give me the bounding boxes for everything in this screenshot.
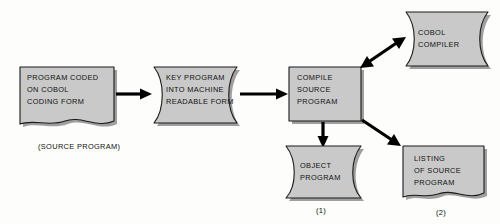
connector-line [367,42,398,63]
listing-of-source-ref: (2) [436,208,446,217]
cobol-compiler-line-2: COMPILER [418,40,459,49]
source-document-line-1: PROGRAM CODED [27,73,98,82]
compile-source-line-1: COMPILE [297,73,333,82]
object-program-line-2: PROGRAM [300,173,341,182]
arrowhead-right-icon [276,89,288,100]
arrowhead-down-right-icon [387,134,401,146]
compile-source-line-2: SOURCE [297,85,331,94]
object-program-ref: (1) [316,206,326,215]
object-program-line-1: OBJECT [300,161,331,170]
listing-of-source-line-2: OF SOURCE [414,166,461,175]
key-program-line-3: READABLE FORM [166,97,234,106]
connector-compile-to-compiler [360,37,406,68]
flowchart-diagram: PROGRAM CODED ON COBOL CODING FORM (SOUR… [0,0,500,224]
source-program-caption: (SOURCE PROGRAM) [38,142,120,151]
connector-compile-to-object [318,122,329,148]
flowchart-canvas: PROGRAM CODED ON COBOL CODING FORM (SOUR… [0,0,500,224]
key-program-line-1: KEY PROGRAM [166,73,225,82]
node-key-program[interactable]: KEY PROGRAM INTO MACHINE READABLE FORM [154,67,237,123]
source-document-line-2: ON COBOL [27,85,69,94]
node-source-document[interactable]: PROGRAM CODED ON COBOL CODING FORM [20,67,114,124]
node-object-program[interactable]: OBJECT PROGRAM [286,146,361,198]
stored-data-shape [406,12,488,66]
listing-of-source-line-3: PROGRAM [414,178,455,187]
listing-of-source-line-1: LISTING [414,154,445,163]
connector-compile-to-listing [362,120,401,146]
connector-source-to-key [116,89,152,100]
source-document-line-3: CODING FORM [27,97,84,106]
connector-key-to-compile [240,89,288,100]
node-compile-source[interactable]: COMPILE SOURCE PROGRAM [289,67,361,121]
node-listing-of-source[interactable]: LISTING OF SOURCE PROGRAM [403,146,484,197]
key-program-line-2: INTO MACHINE [166,85,224,94]
cobol-compiler-line-1: COBOL [418,28,446,37]
stored-data-shape [286,146,361,198]
node-cobol-compiler[interactable]: COBOL COMPILER [406,12,488,66]
arrowhead-right-icon [140,89,152,100]
connector-line [362,120,392,140]
compile-source-line-3: PROGRAM [297,97,338,106]
